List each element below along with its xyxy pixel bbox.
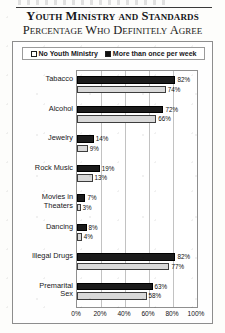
- chart-category-row: Alcohol72%66%: [77, 102, 199, 129]
- legend-label: More than once per week: [113, 50, 197, 57]
- category-label: Alcohol: [13, 105, 73, 114]
- bar-no-youth-ministry: [77, 233, 82, 241]
- chart-category-row: Dancing8%4%: [77, 220, 199, 247]
- bar-more-than-once-per-week: [77, 283, 153, 291]
- bar-more-than-once-per-week: [77, 224, 87, 232]
- x-axis-tick-label: 60%: [141, 310, 154, 317]
- bar-more-than-once-per-week: [77, 165, 100, 173]
- plot-area: Tabacco82%74%Alcohol72%66%Jewelry14%9%Ro…: [76, 70, 198, 308]
- bar-value-label: 82%: [177, 253, 190, 261]
- chart-category-row: Tabacco82%74%: [77, 72, 199, 99]
- bar-no-youth-ministry: [77, 174, 93, 182]
- legend-item-more-than-once-per-week: More than once per week: [105, 50, 197, 57]
- legend-label: No Youth Ministry: [39, 50, 98, 57]
- bar-value-label: 4%: [84, 233, 93, 241]
- bar-value-label: 9%: [90, 145, 99, 153]
- bar-value-label: 72%: [165, 106, 178, 114]
- category-label: Movies inTheaters: [13, 193, 73, 210]
- bar-more-than-once-per-week: [77, 194, 85, 202]
- category-label: PremaritalSex: [13, 282, 73, 299]
- chart-category-row: Jewelry14%9%: [77, 131, 199, 158]
- page-subtitle: Percentage Who Definitely Agree: [0, 23, 225, 38]
- category-label: Tabacco: [13, 75, 73, 84]
- category-label: Jewelry: [13, 134, 73, 143]
- chart-category-row: Movies inTheaters7%3%: [77, 190, 199, 217]
- bar-value-label: 58%: [149, 292, 162, 300]
- horizontal-rule: [16, 7, 212, 8]
- category-label: Rock Music: [13, 164, 73, 173]
- x-axis-tick-label: 20%: [93, 310, 106, 317]
- bar-more-than-once-per-week: [77, 135, 94, 143]
- open-square-icon: [31, 51, 37, 57]
- bar-value-label: 74%: [168, 86, 181, 94]
- bar-no-youth-ministry: [77, 263, 169, 271]
- bar-no-youth-ministry: [77, 115, 156, 123]
- bar-value-label: 66%: [158, 115, 171, 123]
- bar-no-youth-ministry: [77, 204, 81, 212]
- chart-legend: No Youth Ministry More than once per wee…: [22, 47, 205, 60]
- category-label: Illegal Drugs: [13, 252, 73, 261]
- x-axis-tick-label: 0%: [71, 310, 81, 317]
- bar-value-label: 14%: [96, 135, 109, 143]
- chart-category-row: Illegal Drugs82%77%: [77, 249, 199, 276]
- filled-square-icon: [105, 51, 111, 57]
- legend-item-no-youth-ministry: No Youth Ministry: [31, 50, 98, 57]
- chart-category-row: Rock Music19%13%: [77, 161, 199, 188]
- bar-value-label: 63%: [155, 283, 168, 291]
- plot-wrapper: Tabacco82%74%Alcohol72%66%Jewelry14%9%Ro…: [13, 66, 214, 324]
- bar-more-than-once-per-week: [77, 76, 175, 84]
- bar-value-label: 19%: [102, 165, 115, 173]
- bar-no-youth-ministry: [77, 86, 166, 94]
- bar-no-youth-ministry: [77, 292, 147, 300]
- x-axis-tick-label: 40%: [117, 310, 130, 317]
- bar-value-label: 82%: [177, 76, 190, 84]
- bar-value-label: 7%: [87, 194, 96, 202]
- scan-artifact: [18, 0, 168, 5]
- x-axis-tick-label: 80%: [165, 310, 178, 317]
- x-axis: 0%20%40%60%80%100%: [76, 310, 198, 322]
- category-label: Dancing: [13, 223, 73, 232]
- bar-value-label: 77%: [171, 263, 184, 271]
- bar-no-youth-ministry: [77, 145, 88, 153]
- bar-more-than-once-per-week: [77, 106, 163, 114]
- bar-value-label: 8%: [89, 224, 98, 232]
- page-title: Youth Ministry and Standards: [0, 9, 225, 24]
- bar-value-label: 3%: [83, 204, 92, 212]
- bar-value-label: 13%: [95, 174, 108, 182]
- document-page: Youth Ministry and Standards Percentage …: [0, 0, 225, 333]
- chart-frame: No Youth Ministry More than once per wee…: [12, 41, 213, 324]
- x-axis-tick-label: 100%: [188, 310, 205, 317]
- bar-more-than-once-per-week: [77, 253, 175, 261]
- chart-category-row: PremaritalSex63%58%: [77, 279, 199, 306]
